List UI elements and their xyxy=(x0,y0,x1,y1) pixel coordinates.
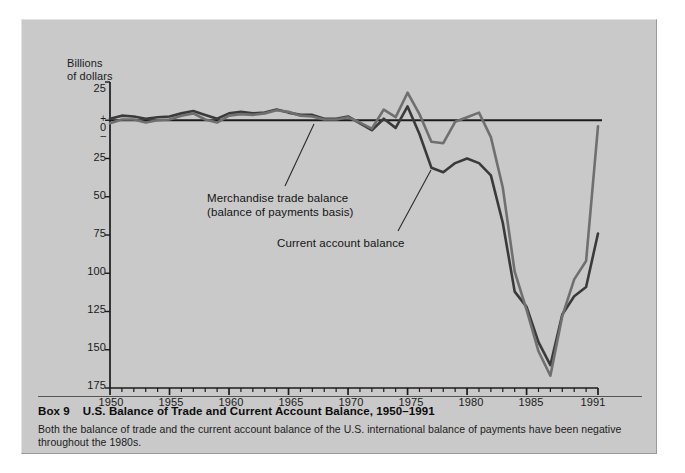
series-line-merchandise-trade-balance xyxy=(110,106,598,365)
caption-divider xyxy=(38,396,642,397)
series-line-current-account-balance xyxy=(110,93,598,376)
caption-body-text: Both the balance of trade and the curren… xyxy=(38,423,638,449)
chart-canvas xyxy=(22,20,658,396)
chart-series-group xyxy=(110,93,598,376)
current-account-leader-line xyxy=(398,170,431,231)
chart-axes xyxy=(105,82,598,395)
x-axis-ticks xyxy=(110,388,598,395)
annotation-leader-lines xyxy=(285,124,431,231)
figure-caption: Box 9U.S. Balance of Trade and Current A… xyxy=(22,396,658,455)
caption-title-row: Box 9U.S. Balance of Trade and Current A… xyxy=(38,405,435,417)
figure-panel: Billions of dollars 25 + 0 – 25 50 75 10… xyxy=(21,19,657,454)
caption-title-text: U.S. Balance of Trade and Current Accoun… xyxy=(83,405,435,417)
chart-plot-region: Billions of dollars 25 + 0 – 25 50 75 10… xyxy=(22,20,658,396)
merchandise-leader-line xyxy=(285,124,314,186)
caption-box-number: Box 9 xyxy=(38,405,70,417)
